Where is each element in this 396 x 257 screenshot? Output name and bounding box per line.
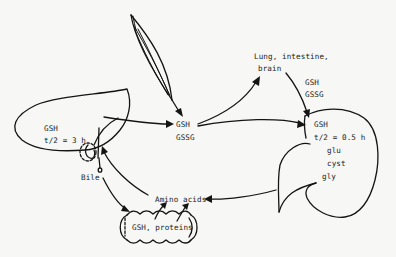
liver-vein-line [94,118,118,145]
intestine-label: GSH, proteins [132,224,193,232]
kidney-product-gly: gly [322,173,336,181]
other-organs-label-line1: Lung, intestine, [254,53,329,61]
kidney-product-glu: glu [327,147,341,155]
arrow-plasma-to-other-organs [198,76,260,124]
bile-label: Bile [81,174,100,182]
plasma-gssg-label: GSSG [176,134,195,142]
glutathione-interorgan-diagram [0,0,396,257]
kidney-product-cyst: cyst [327,160,346,168]
liver-gsh-label: GSH [44,125,58,133]
arrow-bile-to-intestine [103,178,130,212]
arrow-plasma-to-kidney [198,120,306,128]
kidney-gsh-label: GSH [314,121,328,129]
arrow-muscle-to-plasma [172,100,183,117]
amino-acids-label: Amino acids [155,196,206,204]
other-organs-gsh-label: GSH [305,79,319,87]
other-organs-label-line2: brain [258,65,281,73]
plasma-gsh-label: GSH [176,121,190,129]
liver-icon [15,89,130,161]
kidney-half-life-label: t/2 = 0.5 h [314,134,365,142]
arrow-liver-to-plasma [104,117,174,128]
arrow-kidney-to-amino-acids [204,190,276,203]
muscle-icon [131,15,172,100]
other-organs-gssg-label: GSSG [305,91,324,99]
liver-half-life-label: t/2 = 3 h [44,137,86,145]
